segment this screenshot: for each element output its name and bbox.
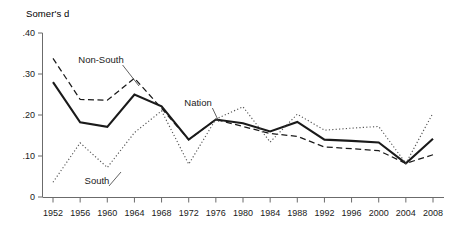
x-axis-tick-label: 2008	[423, 208, 443, 218]
x-axis-tick-label: 1976	[206, 208, 226, 218]
chart-canvas: Somer's d 0.10.20.30.40 1952195619601964…	[0, 0, 451, 228]
y-axis-tick-label: .10	[22, 151, 35, 161]
x-axis-ticks	[53, 198, 433, 203]
series-label-non-south: Non-South	[78, 54, 123, 65]
x-axis-tick-label: 1968	[152, 208, 172, 218]
somers-d-line-chart: Somer's d 0.10.20.30.40 1952195619601964…	[0, 0, 451, 228]
x-axis-tick-label: 1952	[43, 208, 63, 218]
y-axis-title: Somer's d	[26, 8, 69, 19]
leader-line-south	[109, 172, 121, 186]
x-axis-tick-labels: 1952195619601964196819721976198019841988…	[43, 208, 443, 218]
x-axis-tick-label: 1960	[97, 208, 117, 218]
series-line-nation	[53, 82, 433, 163]
x-axis-tick-label: 1972	[179, 208, 199, 218]
series-line-non-south	[53, 58, 433, 163]
series-label-nation: Nation	[184, 97, 211, 108]
x-axis-tick-label: 1992	[314, 208, 334, 218]
x-axis-tick-label: 1980	[233, 208, 253, 218]
y-axis-tick-label: 0	[30, 192, 35, 202]
data-series-group	[53, 58, 433, 182]
annotation-leader-lines	[109, 65, 219, 186]
y-axis-tick-label: .20	[22, 110, 35, 120]
x-axis-tick-label: 1984	[260, 208, 280, 218]
series-label-south: South	[85, 175, 110, 186]
x-axis-tick-label: 1964	[124, 208, 144, 218]
leader-line-non-south	[123, 65, 139, 86]
x-axis-tick-label: 1996	[342, 208, 362, 218]
series-inline-labels: Non-SouthSouthNation	[78, 54, 211, 186]
y-axis-ticks	[38, 33, 43, 197]
x-axis-tick-label: 2004	[396, 208, 416, 218]
y-axis-tick-labels: 0.10.20.30.40	[22, 28, 35, 202]
x-axis-tick-label: 2000	[369, 208, 389, 218]
x-axis-tick-label: 1988	[287, 208, 307, 218]
y-axis-tick-label: .30	[22, 69, 35, 79]
series-line-south	[53, 107, 433, 182]
y-axis-tick-label: .40	[22, 28, 35, 38]
x-axis-tick-label: 1956	[70, 208, 90, 218]
